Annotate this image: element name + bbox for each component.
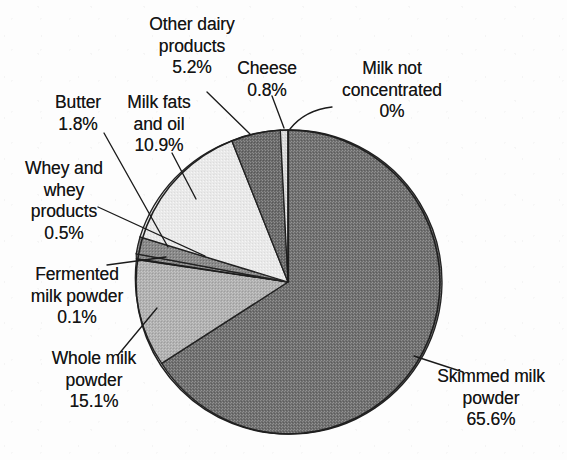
pie-label-fermented-milk-powder: Fermented milk powder 0.1% bbox=[12, 264, 142, 329]
pie-label-milk-not-concentrated: Milk not concentrated 0% bbox=[316, 58, 468, 123]
pie-chart-figure: Other dairy products 5.2% Cheese 0.8% Mi… bbox=[0, 0, 567, 460]
pie-label-whole-milk-powder: Whole milk powder 15.1% bbox=[32, 348, 156, 413]
pie-label-milk-fats-and-oil: Milk fats and oil 10.9% bbox=[106, 92, 212, 157]
pie-label-skimmed-milk-powder: Skimmed milk powder 65.6% bbox=[420, 366, 562, 431]
pie-label-cheese: Cheese 0.8% bbox=[222, 58, 312, 101]
pie-label-whey-and-whey-products: Whey and whey products 0.5% bbox=[4, 158, 124, 244]
